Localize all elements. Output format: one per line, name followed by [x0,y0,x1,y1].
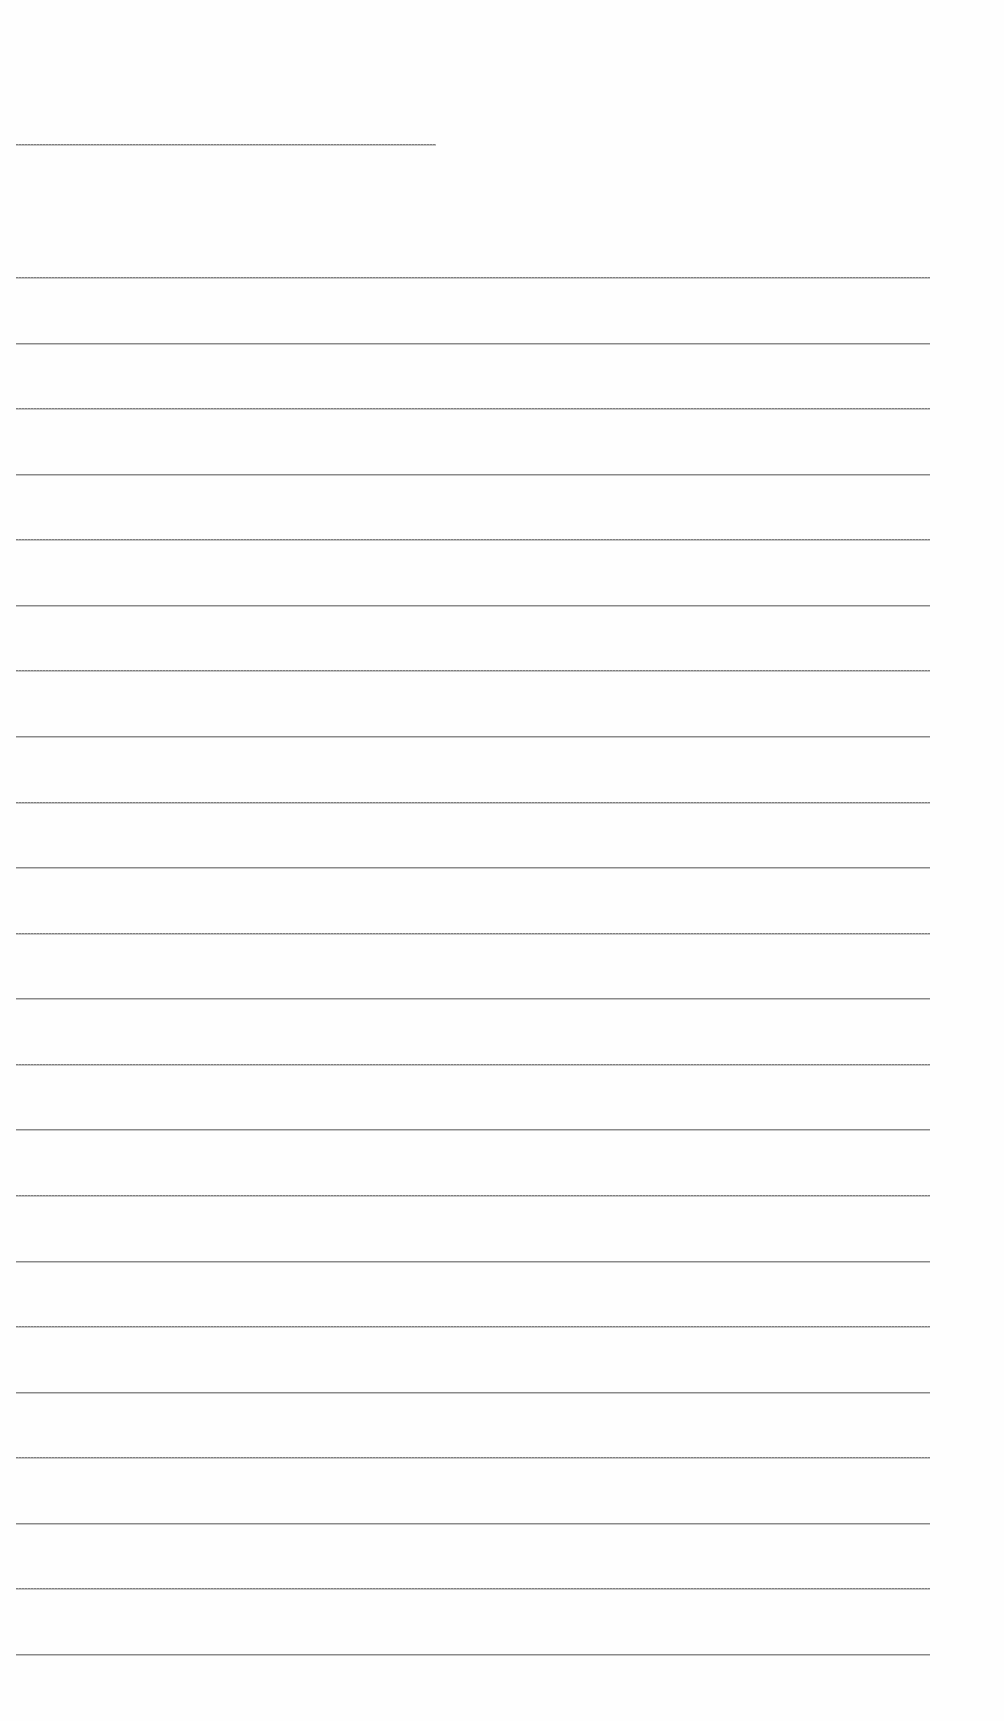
writing-line [16,1523,930,1525]
writing-line [16,1588,930,1590]
writing-line [16,1457,930,1459]
writing-line [16,539,930,541]
writing-line [16,1064,930,1066]
writing-line [16,474,930,476]
writing-line [16,1326,930,1328]
writing-line [16,867,930,869]
writing-line [16,998,930,1000]
writing-line [16,1261,930,1263]
heading-line [16,144,436,146]
writing-line [16,670,930,672]
writing-line [16,933,930,935]
writing-line [16,802,930,804]
writing-line [16,1129,930,1131]
lined-paper-page [0,0,1004,1721]
writing-line [16,605,930,607]
writing-line [16,277,930,279]
writing-line [16,408,930,410]
writing-line [16,1195,930,1197]
writing-line [16,1654,930,1656]
writing-line [16,343,930,345]
writing-line [16,1392,930,1394]
writing-line [16,736,930,738]
